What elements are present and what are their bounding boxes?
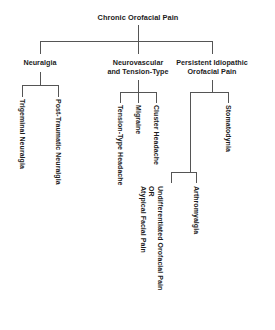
connector-drop-neurovascular [138,41,139,54]
leaf-migraine: Migraine [134,105,142,134]
connector-persistent-subbranch-descender [190,92,191,172]
connector-drop-neuralgia [40,41,41,54]
connector-neurovascular-stem [138,80,139,92]
connector-root-stem [138,25,139,41]
connector-migraine [138,92,139,103]
leaf-tension-type-headache: Tension-Type Headache [116,105,124,186]
connector-arthromyalgia [196,172,197,183]
connector-drop-persistent [212,41,213,54]
leaf-atypical-facial-pain-group: Undifferentiated Orofacial Pain OR Atypi… [138,186,164,290]
connector-persistent-stem [212,80,213,92]
tree-diagram: Chronic Orofacial Pain Neuralgia Neurova… [0,0,275,330]
node-neuralgia: Neuralgia [0,59,80,68]
leaf-trigeminal-neuralgia: Trigeminal Neuralgia [18,99,26,169]
connector-trigeminal-neuralgia [22,85,23,97]
connector-persistent-bar [190,92,228,93]
leaf-undifferentiated-orofacial-pain: Undifferentiated Orofacial Pain [155,186,164,290]
leaf-cluster-headache: Cluster Headache [152,105,160,165]
leaf-stomatodynia: Stomatodynia [224,105,232,152]
connector-stomatodynia [228,92,229,103]
node-persistent-idiopathic-orofacial-pain: Persistent Idiopathic Orofacial Pain [165,59,259,76]
node-chronic-orofacial-pain: Chronic Orofacial Pain [58,14,218,23]
connector-tension-type-headache [120,92,121,103]
connector-neuralgia-bar [22,85,59,86]
leaf-post-traumatic-neuralgia: Post-Traumatic Neuralgia [54,99,62,185]
leaf-arthromyalgia: Arthromyalgia [192,186,200,234]
leaf-atypical-facial-pain: Atypical Facial Pain [138,186,147,290]
connector-neuralgia-stem [40,72,41,85]
connector-atypical-facial-pain [171,172,172,183]
connector-subbranch-bar [171,172,197,173]
connector-root-bar [40,41,213,42]
leaf-or-connector: OR [147,186,156,290]
connector-cluster-headache [156,92,157,103]
connector-post-traumatic-neuralgia [58,85,59,97]
